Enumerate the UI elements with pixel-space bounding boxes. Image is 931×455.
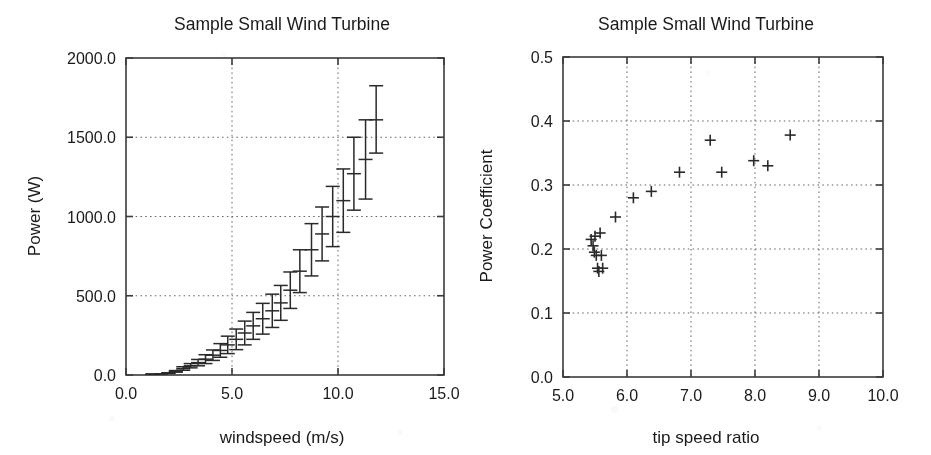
right-plot-area: 0.00.10.20.30.40.55.06.07.08.09.010.0 xyxy=(531,49,899,404)
left-y-tick-label: 0.0 xyxy=(94,367,116,384)
scatter-plus-marker xyxy=(588,240,599,251)
scatter-plus-marker xyxy=(748,155,759,166)
left-x-tick-label: 0.0 xyxy=(115,385,137,402)
scatter-plus-marker xyxy=(628,192,639,203)
right-x-tick-label: 8.0 xyxy=(744,387,766,404)
left-x-tick-label: 5.0 xyxy=(221,385,243,402)
scatter-plus-marker xyxy=(646,186,657,197)
scatter-plus-marker xyxy=(762,160,773,171)
left-chart-svg: Sample Small Wind Turbine 0.0500.01000.0… xyxy=(0,0,466,455)
error-bar xyxy=(359,120,373,199)
scatter-plus-marker xyxy=(716,167,727,178)
error-bar xyxy=(305,224,319,276)
left-y-tick-label: 1000.0 xyxy=(67,209,116,226)
right-chart-title: Sample Small Wind Turbine xyxy=(598,14,814,34)
figure-page: Sample Small Wind Turbine 0.0500.01000.0… xyxy=(0,0,931,455)
right-x-tick-label: 7.0 xyxy=(680,387,702,404)
left-x-axis-label: windspeed (m/s) xyxy=(219,428,345,447)
left-y-tick-label: 2000.0 xyxy=(67,50,116,67)
left-chart-panel: Sample Small Wind Turbine 0.0500.01000.0… xyxy=(0,0,466,455)
error-bar xyxy=(246,312,260,339)
right-y-tick-label: 0.0 xyxy=(531,369,553,386)
right-x-tick-label: 5.0 xyxy=(552,387,574,404)
left-x-tick-label: 10.0 xyxy=(322,385,353,402)
left-y-tick-label: 500.0 xyxy=(76,288,116,305)
right-y-tick-label: 0.3 xyxy=(531,177,553,194)
right-y-tick-label: 0.1 xyxy=(531,305,553,322)
right-y-tick-label: 0.2 xyxy=(531,241,553,258)
scatter-plus-marker xyxy=(610,212,621,223)
scatter-plus-marker xyxy=(785,130,796,141)
left-plot-area: 0.0500.01000.01500.02000.00.05.010.015.0 xyxy=(67,50,460,402)
scatter-plus-marker xyxy=(705,135,716,146)
error-bar xyxy=(369,86,383,153)
right-chart-panel: Sample Small Wind Turbine 0.00.10.20.30.… xyxy=(466,0,931,455)
error-bar xyxy=(315,207,329,261)
right-y-tick-label: 0.4 xyxy=(531,113,553,130)
error-bar xyxy=(256,303,270,334)
left-y-axis-label: Power (W) xyxy=(25,176,44,256)
error-bar xyxy=(191,359,205,365)
error-bar xyxy=(326,186,340,246)
right-x-tick-label: 6.0 xyxy=(616,387,638,404)
scatter-plus-marker xyxy=(674,167,685,178)
error-bar xyxy=(238,321,252,345)
right-y-tick-label: 0.5 xyxy=(531,49,553,66)
right-x-tick-label: 9.0 xyxy=(808,387,830,404)
left-y-tick-label: 1500.0 xyxy=(67,129,116,146)
error-bar xyxy=(265,294,279,327)
right-x-axis-label: tip speed ratio xyxy=(653,428,760,447)
right-chart-svg: Sample Small Wind Turbine 0.00.10.20.30.… xyxy=(466,0,931,455)
left-x-tick-label: 15.0 xyxy=(428,385,459,402)
left-chart-title: Sample Small Wind Turbine xyxy=(174,14,390,34)
right-x-tick-label: 10.0 xyxy=(867,387,898,404)
error-bar xyxy=(229,329,243,350)
right-y-axis-label: Power Coefficient xyxy=(477,149,496,282)
error-bar xyxy=(293,250,307,293)
